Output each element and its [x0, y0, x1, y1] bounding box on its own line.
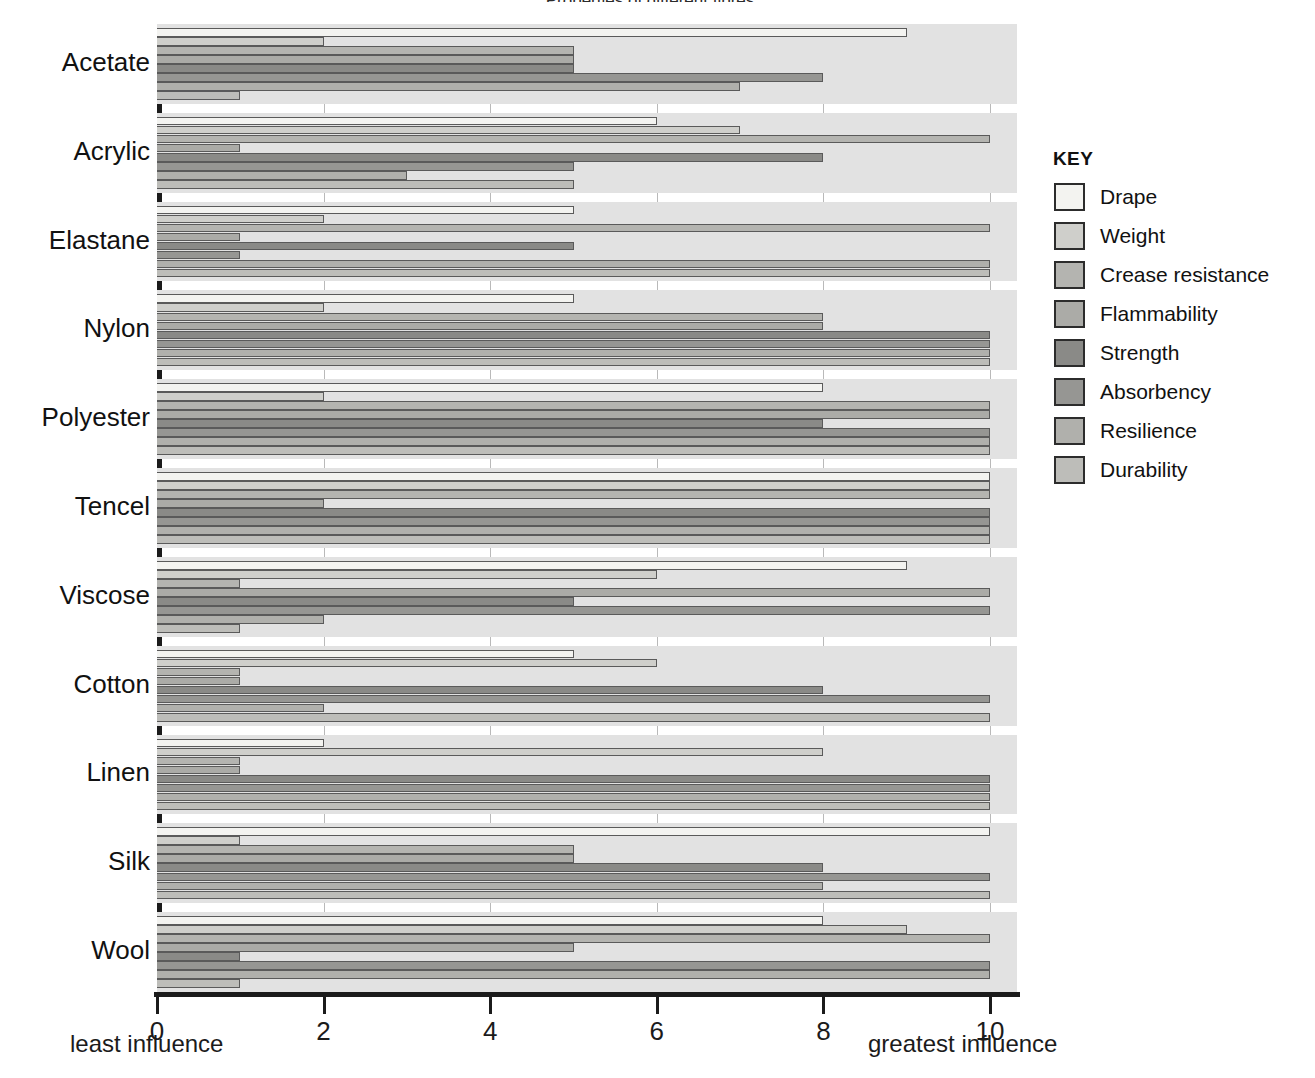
bar-acrylic-crease-resistance: [157, 135, 990, 144]
page-title: Properties of different fibres: [300, 0, 1000, 2]
category-label-polyester: Polyester: [42, 402, 150, 433]
bar-linen-weight: [157, 748, 823, 757]
bar-polyester-flammability: [157, 410, 990, 419]
bar-acetate-strength: [157, 64, 574, 73]
legend-swatch-absorbency: [1054, 378, 1085, 406]
bar-linen-durability: [157, 802, 990, 811]
bar-nylon-flammability: [157, 322, 823, 331]
bar-group-elastane: [157, 202, 1017, 282]
bar-group-linen: [157, 735, 1017, 815]
tick-mark-4: [489, 997, 492, 1014]
bar-viscose-durability: [157, 624, 240, 633]
x-axis-line: [154, 992, 1020, 997]
bar-linen-strength: [157, 775, 990, 784]
bar-group-cotton: [157, 646, 1017, 726]
bar-nylon-crease-resistance: [157, 313, 823, 322]
legend-label-durability: Durability: [1100, 458, 1188, 482]
legend-swatch-crease-resistance: [1054, 261, 1085, 289]
legend-label-weight: Weight: [1100, 224, 1165, 248]
bar-linen-drape: [157, 739, 324, 748]
legend: KEY DrapeWeightCrease resistanceFlammabi…: [1048, 148, 1313, 489]
bar-silk-durability: [157, 891, 990, 900]
legend-swatch-drape: [1054, 183, 1085, 211]
legend-swatch-strength: [1054, 339, 1085, 367]
tick-mark-10: [989, 997, 992, 1014]
legend-item-absorbency[interactable]: Absorbency: [1048, 372, 1313, 411]
bar-group-wool: [157, 912, 1017, 992]
bar-acetate-absorbency: [157, 73, 823, 82]
bar-wool-flammability: [157, 943, 574, 952]
bar-elastane-resilience: [157, 260, 990, 269]
bar-elastane-strength: [157, 242, 574, 251]
bar-acetate-resilience: [157, 82, 740, 91]
legend-swatch-durability: [1054, 456, 1085, 484]
tick-mark-8: [822, 997, 825, 1014]
bar-tencel-crease-resistance: [157, 490, 990, 499]
legend-label-strength: Strength: [1100, 341, 1179, 365]
legend-item-drape[interactable]: Drape: [1048, 177, 1313, 216]
bar-polyester-drape: [157, 383, 823, 392]
category-label-viscose: Viscose: [59, 580, 150, 611]
category-label-silk: Silk: [108, 846, 150, 877]
tick-label-4: 4: [483, 1016, 497, 1047]
bar-viscose-strength: [157, 597, 574, 606]
legend-item-crease-resistance[interactable]: Crease resistance: [1048, 255, 1313, 294]
tick-label-8: 8: [816, 1016, 830, 1047]
legend-item-resilience[interactable]: Resilience: [1048, 411, 1313, 450]
legend-item-durability[interactable]: Durability: [1048, 450, 1313, 489]
legend-swatch-weight: [1054, 222, 1085, 250]
legend-item-flammability[interactable]: Flammability: [1048, 294, 1313, 333]
bar-silk-strength: [157, 863, 823, 872]
bar-acrylic-absorbency: [157, 162, 574, 171]
bar-viscose-flammability: [157, 588, 990, 597]
bar-linen-resilience: [157, 793, 990, 802]
legend-swatch-flammability: [1054, 300, 1085, 328]
bar-wool-durability: [157, 979, 240, 988]
bar-elastane-flammability: [157, 233, 240, 242]
category-label-linen: Linen: [86, 757, 150, 788]
bar-wool-weight: [157, 925, 907, 934]
bar-linen-flammability: [157, 766, 240, 775]
tick-mark-2: [323, 997, 326, 1014]
bar-polyester-weight: [157, 392, 324, 401]
bar-group-polyester: [157, 379, 1017, 459]
legend-label-drape: Drape: [1100, 185, 1157, 209]
bar-tencel-durability: [157, 535, 990, 544]
bar-cotton-strength: [157, 686, 823, 695]
bar-polyester-absorbency: [157, 428, 990, 437]
bar-wool-absorbency: [157, 961, 990, 970]
bar-elastane-crease-resistance: [157, 224, 990, 233]
bar-group-viscose: [157, 557, 1017, 637]
bar-acetate-durability: [157, 91, 240, 100]
bar-viscose-absorbency: [157, 606, 990, 615]
bar-group-acrylic: [157, 113, 1017, 193]
bar-polyester-crease-resistance: [157, 401, 990, 410]
chart-page: Properties of different fibres 0246810 A…: [0, 0, 1315, 1078]
plot-area: 0246810: [157, 24, 1017, 992]
category-label-acrylic: Acrylic: [73, 136, 150, 167]
bar-tencel-weight: [157, 481, 990, 490]
legend-label-flammability: Flammability: [1100, 302, 1218, 326]
bar-polyester-durability: [157, 446, 990, 455]
bar-acetate-weight: [157, 37, 324, 46]
tick-mark-0: [156, 997, 159, 1014]
legend-item-weight[interactable]: Weight: [1048, 216, 1313, 255]
bar-nylon-absorbency: [157, 340, 990, 349]
legend-item-strength[interactable]: Strength: [1048, 333, 1313, 372]
bar-cotton-absorbency: [157, 695, 990, 704]
legend-label-resilience: Resilience: [1100, 419, 1197, 443]
category-label-acetate: Acetate: [62, 47, 150, 78]
bar-wool-drape: [157, 916, 823, 925]
bar-polyester-strength: [157, 419, 823, 428]
bar-tencel-strength: [157, 508, 990, 517]
bar-cotton-durability: [157, 713, 990, 722]
bar-wool-crease-resistance: [157, 934, 990, 943]
legend-items: DrapeWeightCrease resistanceFlammability…: [1048, 177, 1313, 489]
bar-viscose-crease-resistance: [157, 579, 240, 588]
tick-mark-6: [656, 997, 659, 1014]
bar-acetate-drape: [157, 28, 907, 37]
bar-cotton-drape: [157, 650, 574, 659]
bar-acrylic-durability: [157, 180, 574, 189]
caption-greatest-influence: greatest influence: [868, 1030, 1057, 1058]
bar-linen-crease-resistance: [157, 757, 240, 766]
